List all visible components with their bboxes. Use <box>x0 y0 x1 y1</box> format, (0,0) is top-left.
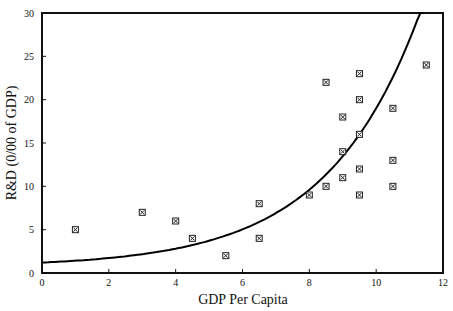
y-tick-label: 30 <box>24 8 34 19</box>
data-point-marker <box>356 192 362 198</box>
data-point-marker <box>356 71 362 77</box>
data-point-marker <box>390 183 396 189</box>
data-point-marker <box>390 105 396 111</box>
scatter-chart: 024681012 051015202530 GDP Per Capita R&… <box>0 0 453 311</box>
data-points <box>72 62 429 259</box>
y-tick-label: 0 <box>29 268 34 279</box>
data-point-marker <box>356 131 362 137</box>
data-point-marker <box>256 235 262 241</box>
data-point-marker <box>390 157 396 163</box>
fit-curve <box>42 13 424 263</box>
x-tick-label: 6 <box>240 277 245 288</box>
y-axis-title: R&D (0/00 of GDP) <box>4 85 20 200</box>
data-point-marker <box>323 79 329 85</box>
plot-frame <box>42 13 443 273</box>
x-tick-label: 10 <box>371 277 381 288</box>
data-point-marker <box>223 253 229 259</box>
data-point-marker <box>173 218 179 224</box>
y-tick-label: 25 <box>24 51 34 62</box>
y-tick-label: 5 <box>29 224 34 235</box>
data-point-marker <box>189 235 195 241</box>
x-tick-label: 4 <box>173 277 178 288</box>
exponential-fit-line <box>42 13 424 263</box>
x-tick-label: 8 <box>307 277 312 288</box>
x-axis-ticks: 024681012 <box>40 269 449 288</box>
data-point-marker <box>356 166 362 172</box>
data-point-marker <box>323 183 329 189</box>
plot-border <box>42 13 443 273</box>
data-point-marker <box>356 97 362 103</box>
data-point-marker <box>340 175 346 181</box>
y-tick-label: 20 <box>24 94 34 105</box>
data-point-marker <box>72 227 78 233</box>
x-tick-label: 12 <box>438 277 448 288</box>
data-point-marker <box>139 209 145 215</box>
y-tick-label: 10 <box>24 181 34 192</box>
x-tick-label: 0 <box>40 277 45 288</box>
data-point-marker <box>306 192 312 198</box>
data-point-marker <box>340 114 346 120</box>
data-point-marker <box>340 149 346 155</box>
x-axis-title: GDP Per Capita <box>198 292 288 307</box>
y-tick-label: 15 <box>24 138 34 149</box>
x-tick-label: 2 <box>106 277 111 288</box>
data-point-marker <box>423 62 429 68</box>
data-point-marker <box>256 201 262 207</box>
